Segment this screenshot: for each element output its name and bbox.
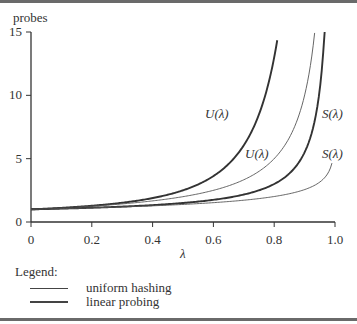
x-tick-label: 0.8 bbox=[266, 232, 282, 247]
curve-u-linear-probing bbox=[31, 40, 277, 209]
x-tick-label: 0.2 bbox=[84, 232, 100, 247]
legend-linear-label: linear probing bbox=[86, 294, 159, 310]
x-tick-label: 0 bbox=[28, 232, 35, 247]
curves bbox=[31, 32, 332, 209]
thick-line-swatch bbox=[30, 301, 68, 303]
x-axis-label: λ bbox=[179, 246, 186, 260]
y-tick-label: 10 bbox=[9, 87, 22, 102]
label-s-uniform: S(λ) bbox=[322, 146, 343, 161]
bottom-rule bbox=[0, 318, 357, 321]
y-tick-label: 5 bbox=[16, 151, 23, 166]
label-u-linear: U(λ) bbox=[205, 106, 229, 121]
y-tick-label: 15 bbox=[9, 24, 22, 39]
y-tick-label: 0 bbox=[16, 214, 23, 229]
axes: 00.20.40.60.81.0051015 bbox=[9, 24, 343, 247]
legend-title: Legend: bbox=[15, 264, 58, 280]
label-s-linear: S(λ) bbox=[322, 106, 343, 121]
x-tick-label: 0.4 bbox=[144, 232, 161, 247]
curve-s-linear-probing bbox=[31, 32, 325, 209]
x-tick-label: 0.6 bbox=[205, 232, 222, 247]
label-u-uniform: U(λ) bbox=[245, 146, 269, 161]
thin-line-swatch bbox=[30, 288, 68, 289]
x-tick-label: 1.0 bbox=[327, 232, 343, 247]
probes-chart: probes 00.20.40.60.81.0051015 U(λ) U(λ) … bbox=[0, 0, 357, 260]
legend-linear: linear probing bbox=[30, 294, 159, 310]
curve-u-uniform-hashing bbox=[31, 33, 315, 209]
y-axis-label: probes bbox=[13, 10, 48, 25]
